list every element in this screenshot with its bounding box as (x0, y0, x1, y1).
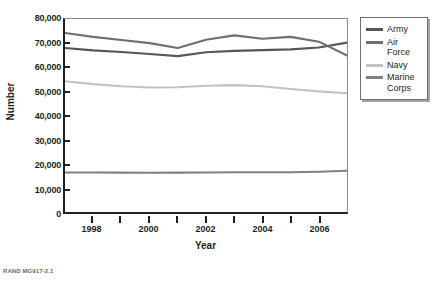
source-note: RAND MG917-2.1 (3, 268, 53, 274)
legend-label-line: Navy (387, 60, 408, 71)
legend-swatch-icon (366, 64, 383, 67)
legend-swatch-icon (366, 41, 383, 44)
legend-item-air-force[interactable]: AirForce (366, 37, 423, 58)
legend-item-navy[interactable]: Navy (366, 60, 423, 71)
y-tick-label: 60,000 (35, 62, 63, 72)
legend-swatch-icon (366, 76, 383, 79)
x-tick-label-2004: 2004 (252, 224, 272, 234)
x-tick-mark (290, 216, 292, 223)
legend-label-line: Marine (387, 72, 415, 83)
y-tick-mark (63, 189, 70, 191)
y-tick-mark (63, 115, 70, 117)
legend-label: Navy (387, 60, 408, 71)
x-tick-mark (319, 216, 321, 223)
legend-label-line: Air (387, 37, 410, 48)
plot-area (63, 18, 348, 214)
y-tick-label: 0 (56, 209, 63, 219)
x-tick-mark (119, 216, 121, 223)
x-tick-label-2000: 2000 (138, 224, 158, 234)
x-axis-title: Year (63, 240, 348, 251)
y-tick-label: 80,000 (35, 13, 63, 23)
y-tick-mark (63, 91, 70, 93)
y-tick-label: 30,000 (35, 135, 63, 145)
legend: ArmyAirForceNavyMarineCorps (360, 17, 428, 100)
line-chart: Number 010,00020,00030,00040,00050,00060… (0, 0, 436, 282)
legend-label: AirForce (387, 37, 410, 58)
legend-label-line: Army (387, 24, 408, 35)
y-tick-mark (63, 66, 70, 68)
legend-item-marine-corps[interactable]: MarineCorps (366, 72, 423, 93)
y-tick-label: 50,000 (35, 86, 63, 96)
y-tick-mark (63, 140, 70, 142)
legend-label-line: Force (387, 47, 410, 58)
series-line-marine-corps (65, 171, 347, 173)
y-tick-label: 10,000 (35, 184, 63, 194)
legend-label: Army (387, 24, 408, 35)
legend-label-line: Corps (387, 83, 415, 94)
x-tick-mark (262, 216, 264, 223)
x-tick-label-1998: 1998 (81, 224, 101, 234)
legend-swatch-icon (366, 28, 383, 31)
x-tick-mark (91, 216, 93, 223)
x-tick-mark (176, 216, 178, 223)
y-axis: 010,00020,00030,00040,00050,00060,00070,… (0, 0, 63, 214)
legend-label: MarineCorps (387, 72, 415, 93)
y-tick-label: 40,000 (35, 111, 63, 121)
x-tick-label-2006: 2006 (309, 224, 329, 234)
series-line-army (65, 43, 347, 57)
x-tick-mark (233, 216, 235, 223)
x-tick-mark (148, 216, 150, 223)
x-tick-label-2002: 2002 (195, 224, 215, 234)
x-tick-mark (205, 216, 207, 223)
legend-item-army[interactable]: Army (366, 24, 423, 35)
series-lines (65, 19, 347, 212)
y-tick-label: 20,000 (35, 160, 63, 170)
y-tick-mark (63, 42, 70, 44)
series-line-navy (65, 81, 347, 93)
y-tick-label: 70,000 (35, 37, 63, 47)
y-tick-mark (63, 164, 70, 166)
